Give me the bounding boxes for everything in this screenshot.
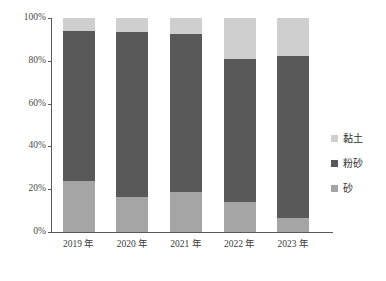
y-axis-tick-label: 100% (24, 13, 46, 23)
bar-stack (224, 18, 256, 232)
legend-swatch-icon (331, 160, 338, 167)
y-axis-tick-label: 60% (29, 99, 46, 109)
chart-legend: 黏土粉砂砂 (331, 126, 383, 201)
bar-stack (277, 18, 309, 232)
bar-segment (63, 18, 95, 31)
y-axis-tick-label: 40% (29, 142, 46, 152)
bar-segment (224, 18, 256, 59)
bar-stack (63, 18, 95, 232)
bar-stack (170, 18, 202, 232)
bar-segment (116, 197, 148, 232)
legend-item-label: 砂 (343, 184, 353, 194)
bar-series-container (52, 18, 320, 232)
bar-group (116, 18, 148, 232)
bar-group (224, 18, 256, 232)
bar-group (277, 18, 309, 232)
bar-stack (116, 18, 148, 232)
legend-item-label: 粉砂 (343, 159, 363, 169)
bar-segment (224, 202, 256, 232)
y-axis-tick-mark (48, 232, 52, 233)
legend-item[interactable]: 黏土 (331, 126, 383, 151)
bar-segment (116, 32, 148, 197)
bar-segment (277, 218, 309, 232)
bar-segment (170, 34, 202, 192)
bar-segment (63, 181, 95, 232)
bar-segment (170, 18, 202, 34)
bar-segment (116, 18, 148, 32)
stacked-bar-chart: 0%20%40%60%80%100% 2019 年2020 年2021 年202… (0, 0, 386, 281)
x-axis-line (51, 232, 333, 233)
bar-segment (277, 56, 309, 218)
bar-segment (63, 31, 95, 181)
legend-item[interactable]: 粉砂 (331, 151, 383, 176)
legend-item[interactable]: 砂 (331, 176, 383, 201)
plot-area: 0%20%40%60%80%100% (52, 18, 320, 232)
y-axis-tick-label: 80% (29, 56, 46, 66)
y-axis-tick-label: 0% (33, 227, 46, 237)
legend-item-label: 黏土 (343, 134, 363, 144)
bar-segment (224, 59, 256, 202)
legend-swatch-icon (331, 185, 338, 192)
bar-group (63, 18, 95, 232)
bar-segment (277, 18, 309, 56)
bar-segment (170, 192, 202, 232)
legend-swatch-icon (331, 135, 338, 142)
y-axis-tick-label: 20% (29, 184, 46, 194)
x-axis-label: 2023 年 (258, 239, 328, 249)
bar-group (170, 18, 202, 232)
